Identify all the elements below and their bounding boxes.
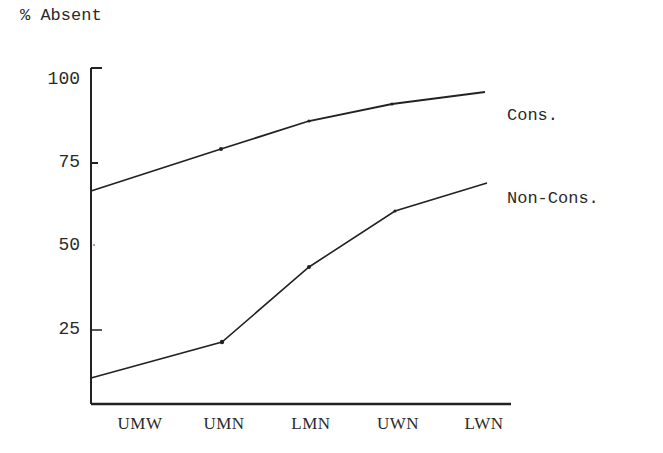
x-tick-umw: UMW	[118, 414, 163, 434]
x-tick-lmn: LMN	[291, 414, 330, 434]
x-tick-uwn: UWN	[377, 414, 419, 434]
series-noncons-line	[91, 183, 487, 378]
x-tick-lwn: LWN	[465, 414, 504, 434]
x-tick-umn: UMN	[203, 414, 244, 434]
series-label-noncons: Non-Cons.	[507, 189, 599, 208]
series-label-cons: Cons.	[507, 106, 558, 125]
data-markers	[219, 102, 397, 344]
series-cons-line	[91, 92, 485, 191]
plot-area	[0, 0, 663, 453]
